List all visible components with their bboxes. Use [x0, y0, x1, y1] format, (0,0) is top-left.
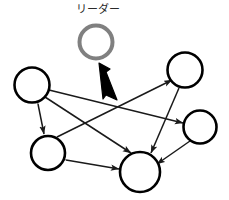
leader-node — [80, 26, 113, 59]
edge-bottom-left-bottom-center — [66, 160, 119, 169]
network-diagram-figure: リーダー — [0, 0, 229, 200]
agent-node-bottom-left — [31, 136, 65, 170]
agent-node-right — [184, 111, 217, 144]
edge-bottom-left-top-right — [57, 80, 172, 137]
leader-pointer-arrow — [99, 63, 117, 100]
agent-node-top-left — [15, 68, 50, 103]
edge-top-left-bottom-left — [38, 104, 44, 134]
edge-top-left-right — [49, 90, 183, 123]
agent-node-bottom-center — [120, 152, 160, 192]
edge-right-bottom-center — [157, 141, 190, 164]
pointer-arrow-shape — [99, 63, 117, 100]
agent-node-top-right — [168, 53, 203, 88]
network-diagram-canvas — [0, 0, 229, 200]
